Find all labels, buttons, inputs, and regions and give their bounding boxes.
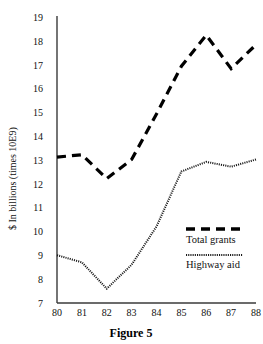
x-tick-label-88: 88 xyxy=(251,307,261,318)
y-tick-label-9: 9 xyxy=(38,250,43,261)
y-tick-label-7: 7 xyxy=(38,298,43,309)
legend-label-highway-aid: Highway aid xyxy=(186,259,241,270)
x-tick-label-80: 80 xyxy=(52,307,62,318)
x-axis-tick-labels: 80 81 82 83 84 85 86 87 88 xyxy=(52,307,261,318)
y-tick-label-12: 12 xyxy=(33,179,43,190)
x-tick-label-81: 81 xyxy=(77,307,87,318)
x-tick-label-84: 84 xyxy=(152,307,162,318)
y-axis-title: $ In billions (times 10E9) xyxy=(7,127,19,230)
x-tick-label-87: 87 xyxy=(226,307,236,318)
chart-legend: Total grants Highway aid xyxy=(186,229,243,270)
y-tick-label-14: 14 xyxy=(33,131,43,142)
x-tick-label-82: 82 xyxy=(102,307,112,318)
figure-container: $ In billions (times 10E9) 19 18 17 16 1… xyxy=(0,0,263,344)
series-line-total-grants xyxy=(57,35,256,179)
y-axis-tick-labels: 19 18 17 16 15 14 13 12 11 10 9 8 7 xyxy=(33,12,43,309)
y-tick-label-13: 13 xyxy=(33,155,43,166)
y-tick-label-15: 15 xyxy=(33,107,43,118)
y-tick-label-17: 17 xyxy=(33,60,43,71)
x-tick-label-83: 83 xyxy=(127,307,137,318)
y-axis-title-group: $ In billions (times 10E9) xyxy=(7,127,19,230)
x-tick-label-86: 86 xyxy=(201,307,211,318)
legend-label-total-grants: Total grants xyxy=(186,234,236,245)
y-tick-label-10: 10 xyxy=(33,226,43,237)
y-tick-label-16: 16 xyxy=(33,83,43,94)
x-tick-label-85: 85 xyxy=(176,307,186,318)
y-tick-label-18: 18 xyxy=(33,36,43,47)
figure-caption: Figure 5 xyxy=(110,326,153,340)
y-tick-label-11: 11 xyxy=(33,202,43,213)
line-chart: $ In billions (times 10E9) 19 18 17 16 1… xyxy=(0,0,263,344)
y-tick-label-19: 19 xyxy=(33,12,43,23)
y-tick-label-8: 8 xyxy=(38,274,43,285)
